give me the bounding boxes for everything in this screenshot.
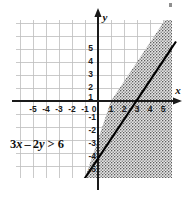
y-tick-4: 4	[88, 56, 93, 66]
x-tick--3: -3	[55, 104, 63, 114]
x-tick--5: -5	[29, 104, 37, 114]
x-tick-2: 2	[122, 104, 127, 114]
x-tick-1: 1	[109, 104, 114, 114]
x-tick-4: 4	[148, 104, 153, 114]
inequality-minus: –	[24, 137, 32, 151]
y-axis-label: y	[101, 11, 108, 23]
y-tick-3: 3	[88, 69, 93, 79]
x-axis-label: x	[174, 84, 181, 96]
inequality-constant: 6	[58, 137, 64, 151]
y-tick-5: 5	[88, 43, 93, 53]
y-tick--1: -1	[88, 112, 96, 122]
scan-artifact	[169, 3, 172, 7]
x-tick--2: -2	[68, 104, 76, 114]
y-axis-arrow	[94, 8, 101, 17]
x-tick-5: 5	[161, 104, 166, 114]
inequality-var-y: y	[37, 137, 45, 151]
x-tick-3: 3	[135, 104, 140, 114]
inequality-var-x: x	[15, 137, 22, 151]
coordinate-plane-svg: -5 -4 -3 -2 -1 0 1 2 3 4 5 5 4 3 2 1 -1 …	[0, 0, 193, 197]
y-tick--4: -4	[88, 151, 96, 161]
inequality-graph-figure: -5 -4 -3 -2 -1 0 1 2 3 4 5 5 4 3 2 1 -1 …	[0, 0, 193, 197]
y-tick-2: 2	[88, 82, 93, 92]
y-tick--3: -3	[88, 138, 96, 148]
y-tick--2: -2	[88, 125, 96, 135]
x-axis-arrow	[173, 97, 182, 104]
x-tick--4: -4	[42, 104, 50, 114]
inequality-relation: >	[48, 137, 55, 151]
y-tick--5: -5	[88, 164, 96, 174]
y-tick-1: 1	[88, 92, 93, 102]
